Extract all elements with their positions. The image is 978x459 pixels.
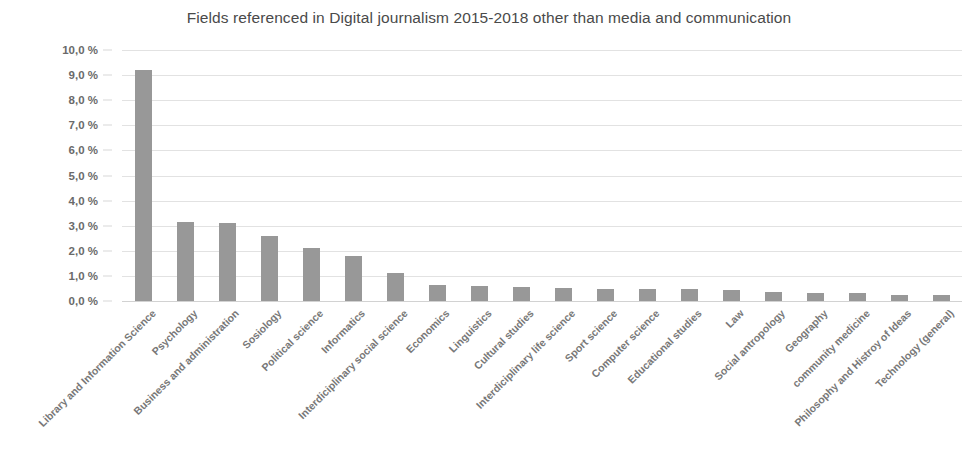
y-tick-label: 1,0 % [69, 270, 98, 282]
y-tick-mark [103, 75, 112, 76]
y-tick-label: 9,0 % [69, 69, 98, 81]
x-tick-label: Educational studies [625, 307, 704, 386]
bar [807, 293, 824, 301]
bar-chart-figure: Fields referenced in Digital journalism … [0, 0, 978, 459]
y-tick-mark [103, 225, 112, 226]
bar [555, 288, 572, 301]
bar [891, 295, 908, 301]
x-tick-label: Technology (general) [873, 307, 956, 390]
x-tick-label: Law [723, 307, 746, 330]
bar [429, 285, 446, 301]
y-tick-mark [103, 150, 112, 151]
x-tick-label: Economics [403, 307, 451, 355]
bar [303, 248, 320, 301]
bar [933, 295, 950, 301]
y-tick-mark [103, 200, 112, 201]
bar [345, 256, 362, 301]
bar [849, 293, 866, 301]
bar [219, 223, 236, 301]
x-tick-label: Social antropology [712, 307, 787, 382]
y-tick-mark [103, 301, 112, 302]
bar [639, 289, 656, 301]
y-tick-mark [103, 125, 112, 126]
gridline [122, 301, 962, 302]
y-tick-label: 10,0 % [62, 44, 98, 56]
x-axis-labels: Library and Information SciencePsycholog… [122, 303, 962, 453]
bar [261, 236, 278, 301]
bar-series [122, 50, 962, 301]
bar [387, 273, 404, 301]
x-tick-label: Sosiology [240, 307, 284, 351]
y-tick-label: 4,0 % [69, 195, 98, 207]
y-tick-label: 7,0 % [69, 119, 98, 131]
y-tick-label: 2,0 % [69, 245, 98, 257]
y-tick-mark [103, 50, 112, 51]
bar [723, 290, 740, 301]
y-tick-label: 8,0 % [69, 94, 98, 106]
x-tick-label: community medicine [790, 307, 872, 389]
bar [681, 289, 698, 301]
bar [177, 222, 194, 301]
y-tick-mark [103, 100, 112, 101]
bar [597, 289, 614, 301]
y-axis: 10,0 %9,0 %8,0 %7,0 %6,0 %5,0 %4,0 %3,0 … [0, 50, 112, 301]
bar [513, 287, 530, 301]
y-tick-mark [103, 275, 112, 276]
y-tick-label: 6,0 % [69, 144, 98, 156]
bar [765, 292, 782, 301]
y-tick-mark [103, 175, 112, 176]
y-tick-label: 5,0 % [69, 170, 98, 182]
y-tick-mark [103, 250, 112, 251]
bar [471, 286, 488, 301]
bar [135, 70, 152, 301]
y-tick-label: 0,0 % [69, 295, 98, 307]
y-tick-label: 3,0 % [69, 220, 98, 232]
page-title: Fields referenced in Digital journalism … [0, 9, 978, 27]
